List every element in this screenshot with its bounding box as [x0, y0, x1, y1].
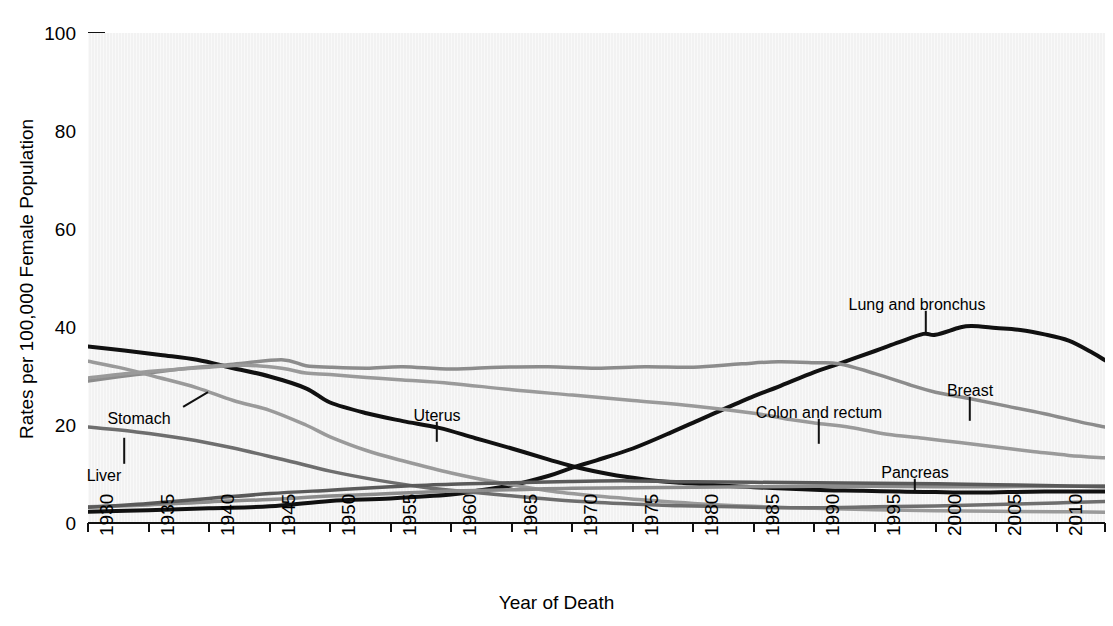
annotation-leader-breast [969, 397, 971, 421]
x-tick-mark-2010 [1056, 523, 1058, 532]
x-tick-label-1960: 1960 [459, 494, 481, 536]
x-tick-mark-1965 [511, 523, 513, 532]
x-tick-label-2005: 2005 [1004, 494, 1026, 536]
y-tick-label-60: 60 [22, 219, 76, 241]
x-tick-label-1930: 1930 [96, 494, 118, 536]
annotation-label-stomach: Stomach [107, 410, 170, 428]
x-tick-mark-1995 [874, 523, 876, 532]
x-tick-label-1945: 1945 [278, 494, 300, 536]
x-tick-label-1970: 1970 [580, 494, 602, 536]
x-tick-mark-1980 [692, 523, 694, 532]
annotation-leader-lung-and-bronchus [925, 311, 927, 334]
x-tick-mark-1960 [450, 523, 452, 532]
x-tick-label-1990: 1990 [822, 494, 844, 536]
x-tick-mark-1950 [329, 523, 331, 532]
x-axis-title: Year of Death [0, 592, 1113, 614]
annotation-label-lung-and-bronchus: Lung and bronchus [849, 296, 986, 314]
series-line-colon-and-rectum [88, 365, 1105, 458]
chart-figure: Rates per 100,000 Female Population 100 … [0, 0, 1113, 626]
annotation-label-liver: Liver [87, 467, 122, 485]
series-canvas [88, 33, 1105, 523]
annotation-leader-liver [123, 438, 125, 464]
x-tick-label-1965: 1965 [520, 494, 542, 536]
y-tick-label-80: 80 [22, 121, 76, 143]
annotation-leader-pancreas [914, 479, 916, 493]
x-tick-mark-1970 [571, 523, 573, 532]
y-tick-label-100: 100 [22, 23, 76, 45]
y-tick-label-20: 20 [22, 415, 76, 437]
y-tick-label-0: 0 [22, 513, 76, 535]
x-tick-label-1985: 1985 [762, 494, 784, 536]
x-tick-label-1935: 1935 [157, 494, 179, 536]
x-tick-mark-1985 [753, 523, 755, 532]
x-tick-mark-1930 [87, 523, 89, 532]
x-tick-label-1955: 1955 [399, 494, 421, 536]
x-tick-mark-2000 [935, 523, 937, 532]
annotation-leader-uterus [436, 422, 438, 442]
x-tick-label-1975: 1975 [641, 494, 663, 536]
x-tick-mark-2005 [995, 523, 997, 532]
x-tick-label-2000: 2000 [944, 494, 966, 536]
x-tick-label-1950: 1950 [338, 494, 360, 536]
y-tick-label-40: 40 [22, 317, 76, 339]
x-tick-mark-2014 [1104, 523, 1106, 532]
x-tick-label-1980: 1980 [701, 494, 723, 536]
x-tick-mark-1990 [813, 523, 815, 532]
x-tick-mark-1940 [208, 523, 210, 532]
x-tick-mark-1955 [390, 523, 392, 532]
annotation-leader-colon-and-rectum [818, 419, 820, 444]
plot-area [88, 33, 1105, 523]
x-tick-mark-1975 [632, 523, 634, 532]
x-tick-mark-1935 [148, 523, 150, 532]
x-tick-label-1940: 1940 [217, 494, 239, 536]
x-tick-mark-1945 [269, 523, 271, 532]
x-tick-label-2010: 2010 [1065, 494, 1087, 536]
y-axis-title: Rates per 100,000 Female Population [16, 19, 38, 539]
x-tick-label-1995: 1995 [883, 494, 905, 536]
